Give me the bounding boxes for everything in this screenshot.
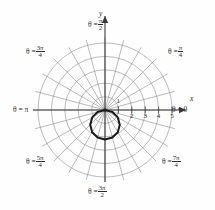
radial-tick-label-3: 3 [143, 112, 147, 120]
spoke-285 [105, 110, 124, 180]
x-axis-label: x [190, 94, 193, 103]
theta-pi-label: θ = π [13, 106, 28, 114]
radial-tick-label-5: 5 [170, 112, 174, 120]
polar-plot-figure: θ = 0 θ =π4 θ =π2 θ =3π4 θ = π θ =5π4 θ … [0, 0, 215, 210]
theta-3pi-2-label: θ =3π2 [88, 185, 107, 200]
spoke-75 [105, 40, 124, 110]
radial-tick-label-1: 1 [117, 97, 121, 105]
theta-3pi-4-label: θ =3π4 [26, 45, 45, 60]
theta-7pi-4-label: θ =7π4 [162, 155, 181, 170]
radial-tick-label-2: 2 [130, 112, 134, 120]
radial-tick-label-4: 4 [157, 112, 161, 120]
theta-0-text: θ = 0 [172, 105, 187, 114]
theta-5pi-4-label: θ =5π4 [26, 155, 45, 170]
theta-0-label: θ = 0 [172, 106, 187, 114]
spoke-195 [35, 110, 105, 129]
theta-pi-text: θ = π [13, 105, 28, 114]
theta-pi-2-label: θ =π2 [88, 18, 103, 33]
theta-pi-4-label: θ =π4 [168, 45, 183, 60]
spoke-255 [86, 110, 105, 180]
y-axis-label: y [99, 9, 102, 18]
y-axis [102, 16, 108, 182]
spoke-165 [35, 91, 105, 110]
spoke-15 [105, 91, 175, 110]
origin-point [103, 108, 106, 111]
spoke-345 [105, 110, 175, 129]
spoke-105 [86, 40, 105, 110]
